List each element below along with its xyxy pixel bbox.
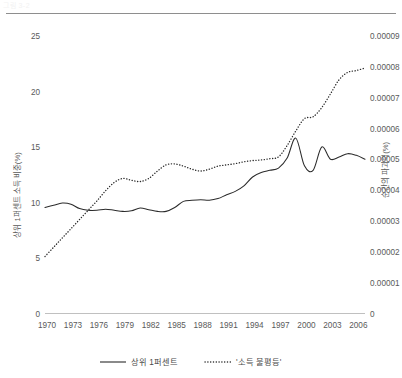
y-tick-right-0: 0 — [370, 310, 375, 319]
x-tick-1970: 1970 — [38, 321, 57, 330]
x-tick-1979: 1979 — [116, 321, 135, 330]
y-tick-left-5: 5 — [35, 254, 40, 263]
y-tick-left-0: 0 — [35, 310, 40, 319]
y-tick-right-0.00002: 0.00002 — [370, 248, 400, 257]
legend-label-income-inequality: '소득 불평등' — [236, 357, 282, 367]
y-tick-right-0.00001: 0.00001 — [370, 279, 400, 288]
y-tick-right-0.00007: 0.00007 — [370, 94, 400, 103]
x-tick-1976: 1976 — [90, 321, 109, 330]
x-tick-1982: 1982 — [142, 321, 161, 330]
x-tick-2003: 2003 — [323, 321, 342, 330]
y-tick-right-0.00008: 0.00008 — [370, 63, 400, 72]
x-tick-2006: 2006 — [349, 321, 368, 330]
y-tick-left-25: 25 — [31, 32, 41, 41]
y-tick-left-10: 10 — [31, 199, 41, 208]
x-tick-1991: 1991 — [220, 321, 239, 330]
y-axis-left-ticks: 0510152025 — [31, 32, 41, 319]
x-tick-1997: 1997 — [271, 321, 290, 330]
x-tick-2000: 2000 — [297, 321, 316, 330]
y-axis-left-label: 상위 1퍼센트 소득 비중(%) — [12, 152, 22, 238]
y-tick-right-0.00009: 0.00009 — [370, 32, 400, 41]
chart-svg: 0510152025 00.000010.000020.000030.00004… — [0, 0, 402, 378]
y-tick-left-20: 20 — [31, 88, 41, 97]
y-tick-right-0.00006: 0.00006 — [370, 125, 400, 134]
y-tick-left-15: 15 — [31, 143, 41, 152]
x-tick-1985: 1985 — [168, 321, 187, 330]
chart-figure: 그림 3-2 0510152025 00.000010.000020.00003… — [0, 0, 402, 378]
series-line-top-one-percent — [45, 138, 365, 212]
y-axis-right-label: 순간의 파괴력(%) — [380, 142, 390, 198]
x-axis-ticks: 1970197319761979198219851988199119941997… — [38, 321, 368, 330]
legend-label-top-one-percent: 상위 1퍼센트 — [131, 357, 178, 367]
series-line-income-inequality — [45, 68, 365, 256]
chart-legend: 상위 1퍼센트 '소득 불평등' — [100, 357, 282, 367]
x-tick-1994: 1994 — [245, 321, 264, 330]
x-tick-1988: 1988 — [194, 321, 213, 330]
y-tick-right-0.00003: 0.00003 — [370, 217, 400, 226]
x-tick-1973: 1973 — [64, 321, 83, 330]
